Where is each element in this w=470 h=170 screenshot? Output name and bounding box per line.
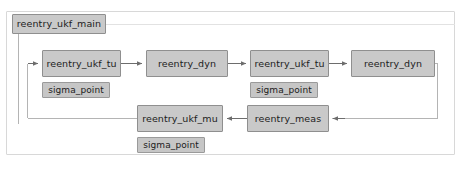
sublabel-text: sigma_point: [48, 86, 104, 95]
block-label: reentry_meas: [255, 114, 321, 124]
block-reentry-dyn-2[interactable]: reentry_dyn: [351, 50, 435, 77]
block-label: reentry_ukf_tu: [46, 59, 116, 69]
block-reentry-ukf-mu[interactable]: reentry_ukf_mu: [137, 105, 223, 132]
model-title-block[interactable]: reentry_ukf_main: [12, 14, 106, 34]
sublabel-sigma-point-3[interactable]: sigma_point: [137, 137, 205, 153]
block-reentry-ukf-tu-2[interactable]: reentry_ukf_tu: [250, 50, 329, 77]
sublabel-text: sigma_point: [256, 86, 312, 95]
block-label: reentry_dyn: [158, 59, 216, 69]
sublabel-text: sigma_point: [143, 141, 199, 150]
block-reentry-dyn-1[interactable]: reentry_dyn: [146, 50, 228, 77]
block-label: reentry_ukf_mu: [142, 114, 218, 124]
model-title-label: reentry_ukf_main: [17, 19, 101, 29]
block-diagram-canvas: reentry_ukf_main reentry_ukf_tu sigma_po…: [0, 0, 470, 170]
sublabel-sigma-point-2[interactable]: sigma_point: [250, 82, 318, 98]
block-reentry-meas[interactable]: reentry_meas: [247, 105, 329, 132]
block-reentry-ukf-tu-1[interactable]: reentry_ukf_tu: [42, 50, 121, 77]
block-label: reentry_dyn: [364, 59, 422, 69]
sublabel-sigma-point-1[interactable]: sigma_point: [42, 82, 110, 98]
block-label: reentry_ukf_tu: [254, 59, 324, 69]
